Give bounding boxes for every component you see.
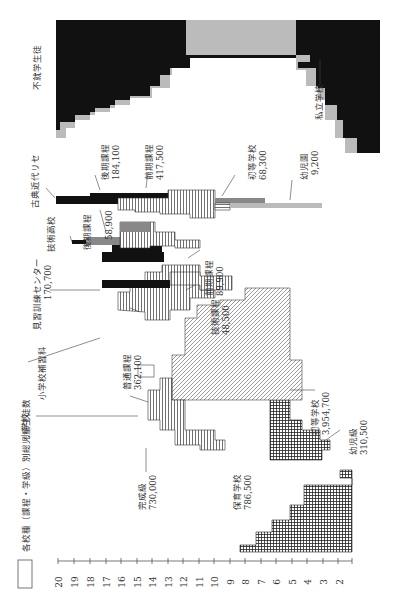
- label-non-attending: 不就学生徒: [32, 45, 42, 90]
- kindergarten-bar: [230, 203, 322, 208]
- label-technical-lower: 前期課程: [204, 260, 214, 296]
- label-lycee-upper: 後期課程: [100, 144, 110, 180]
- primary-school-block: [172, 288, 302, 400]
- label-infant-class: 幼児級: [348, 428, 358, 455]
- tick-20: 20: [54, 576, 64, 588]
- lycee-primary-bar: [215, 198, 265, 203]
- private-school-band: [186, 20, 296, 52]
- label-general-course: 普通課程: [122, 354, 132, 390]
- label-elementary: 小学校: [20, 413, 30, 440]
- value-nursery-school: 786,500: [243, 475, 253, 510]
- tick-9: 9: [226, 579, 236, 585]
- tick-16: 16: [117, 576, 127, 588]
- tick-15: 15: [133, 576, 143, 588]
- label-technical-high: 技術高校: [46, 216, 56, 252]
- tick-6: 6: [272, 579, 282, 585]
- value-technical-lower: 89,900: [215, 266, 225, 296]
- technical-gray-top: [120, 222, 150, 232]
- tick-14: 14: [148, 576, 158, 588]
- apprentice-center-bar-2: [102, 252, 164, 262]
- label-technical-upper: 後期課程: [82, 214, 92, 250]
- value-lycee-lower: 417,500: [155, 145, 165, 180]
- nursery-school-block: [240, 470, 352, 552]
- legend-swatch: [18, 560, 32, 588]
- tick-5: 5: [288, 579, 298, 585]
- lycee-primary-small: [215, 203, 230, 210]
- label-primary-school: 初等学校: [310, 399, 320, 435]
- value-kindergarten: 9,200: [310, 151, 320, 175]
- label-technical-course: 技術課程: [210, 299, 220, 335]
- label-lycee: 古典近代リセ: [30, 154, 40, 208]
- tick-19: 19: [70, 576, 80, 588]
- value-primary-school: 3,954,700: [321, 392, 331, 435]
- label-kindergarten: 幼児園: [299, 153, 309, 180]
- tick-10: 10: [210, 576, 220, 588]
- tick-12: 12: [179, 576, 189, 587]
- label-private-school: 私立学校: [314, 84, 324, 120]
- tick-3: 3: [319, 579, 329, 585]
- value-lycee-upper: 184,100: [111, 145, 121, 180]
- label-apprentice-center: 見習訓練センター: [32, 258, 42, 330]
- value-technical-upper: 58,900: [104, 210, 114, 240]
- tick-7: 7: [257, 579, 267, 585]
- tick-8: 8: [241, 579, 251, 585]
- value-lycee-primary: 68,300: [258, 150, 268, 180]
- education-enrollment-diagram: 各校種（課程・学級）別総児童生徒数 20 19 18 17 16 15 14 1…: [0, 0, 398, 606]
- value-technical-course: 48,500: [221, 305, 231, 335]
- tick-2: 2: [335, 579, 345, 585]
- label-supplementary-course: 小学校補習科: [37, 346, 47, 400]
- value-general-course: 362,100: [133, 355, 143, 390]
- tick-17: 17: [102, 576, 112, 588]
- label-lycee-lower: 前期課程: [144, 144, 154, 180]
- label-nursery-school: 保育学校: [232, 474, 242, 510]
- value-apprentice-center: 170,700: [43, 265, 53, 300]
- tick-4: 4: [303, 579, 313, 585]
- tick-18: 18: [86, 576, 96, 588]
- tick-13: 13: [164, 576, 174, 588]
- value-infant-class: 310,500: [359, 420, 369, 455]
- value-completion-class: 730,000: [148, 475, 158, 510]
- label-completion-class: 完成級: [137, 483, 147, 510]
- label-lycee-primary: 初等学校: [247, 144, 257, 180]
- apprentice-center-bar: [102, 280, 170, 288]
- tick-11: 11: [195, 576, 205, 587]
- age-axis: 20 19 18 17 16 15 14 13 12 11 10 9 8 7 6…: [54, 558, 352, 588]
